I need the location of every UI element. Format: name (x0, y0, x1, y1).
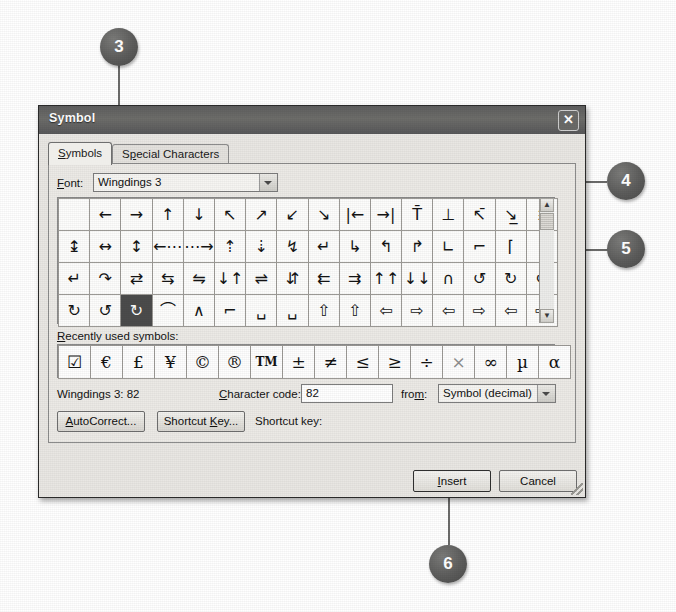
recently-used-cell[interactable]: © (187, 346, 219, 379)
symbol-cell[interactable]: ↖̄ (464, 199, 495, 231)
cancel-button[interactable]: Cancel (499, 470, 577, 492)
symbol-cell[interactable]: ⊥ (433, 199, 464, 231)
symbol-cell[interactable]: ⇦ (433, 295, 464, 327)
scroll-up-icon[interactable]: ▲ (540, 198, 554, 212)
recently-used-cell[interactable]: ¥ (155, 346, 187, 379)
scroll-down-icon[interactable]: ▼ (540, 309, 554, 323)
symbol-cell[interactable]: ↻ (59, 295, 90, 327)
chevron-down-icon[interactable] (537, 385, 555, 402)
recently-used-cell[interactable]: ® (219, 346, 251, 379)
symbol-cell[interactable]: ⇵ (277, 263, 308, 295)
symbol-cell[interactable]: ↯ (277, 231, 308, 263)
symbol-cell[interactable]: ↻ (121, 295, 152, 327)
symbol-cell[interactable]: ⌒ (152, 295, 183, 327)
symbol-cell[interactable]: ⌐ (214, 295, 245, 327)
recently-used-cell[interactable]: × (443, 346, 475, 379)
symbol-grid-scrollbar[interactable]: ▲ ▼ (539, 198, 554, 323)
symbol-cell[interactable]: ⇄ (121, 263, 152, 295)
symbol-cell[interactable]: ↷ (90, 263, 121, 295)
symbol-cell[interactable]: ↘ (308, 199, 339, 231)
from-combobox-value: Symbol (decimal) (443, 387, 532, 399)
symbol-cell[interactable]: ⋯→ (183, 231, 214, 263)
symbol-cell[interactable]: ⌈ (495, 231, 526, 263)
scroll-thumb[interactable] (540, 213, 554, 230)
from-label: from: (401, 388, 427, 400)
symbol-cell[interactable]: ↳ (339, 231, 370, 263)
insert-button[interactable]: Insert (413, 470, 491, 492)
recently-used-cell[interactable]: α (539, 346, 571, 379)
recently-used-cell[interactable]: ≠ (315, 346, 347, 379)
dialog-title: Symbol (49, 111, 95, 125)
recently-used-grid[interactable]: ☑€£¥©®TM±≠≤≥÷×∞µα (57, 344, 555, 378)
tab-special-characters[interactable]: Special Characters (112, 144, 229, 165)
symbol-cell[interactable]: ←⋯ (152, 231, 183, 263)
symbol-cell[interactable]: ↑ (152, 199, 183, 231)
symbol-cell[interactable]: ↵ (308, 231, 339, 263)
symbol-cell[interactable]: ↓↓ (402, 263, 433, 295)
from-combobox[interactable]: Symbol (decimal) (438, 384, 556, 403)
symbol-cell[interactable]: ␣ (246, 295, 277, 327)
close-icon[interactable]: ✕ (558, 110, 579, 131)
chevron-down-icon[interactable] (259, 174, 277, 191)
symbol-cell[interactable]: ⇌ (246, 263, 277, 295)
symbol-cell[interactable]: ⇡ (214, 231, 245, 263)
symbol-cell[interactable]: ↔ (90, 231, 121, 263)
symbol-cell[interactable]: ↑↑ (370, 263, 401, 295)
recently-used-cell[interactable]: ÷ (411, 346, 443, 379)
shortcut-key-button[interactable]: Shortcut Key... (157, 411, 245, 432)
character-code-input[interactable]: 82 (301, 384, 393, 403)
symbol-cell[interactable]: ↨ (59, 231, 90, 263)
symbol-cell[interactable]: →| (370, 199, 401, 231)
symbol-cell[interactable]: ␣ (277, 295, 308, 327)
recently-used-cell[interactable]: ± (283, 346, 315, 379)
symbol-cell[interactable]: ⇦ (370, 295, 401, 327)
symbol-cell[interactable]: ⇉ (339, 263, 370, 295)
symbol-cell[interactable]: ⌐ (464, 231, 495, 263)
symbol-grid[interactable]: ←→↑↓↖↗↙↘|←→|T̄⊥↖̄↘̲↨↨↔↕←⋯⋯→⇡⇣↯↵↳↰↱∟⌐⌈⌉↵↷… (57, 197, 555, 324)
symbol-cell[interactable]: |← (339, 199, 370, 231)
symbol-cell[interactable]: ⇣ (246, 231, 277, 263)
symbol-cell[interactable]: ↱ (402, 231, 433, 263)
symbol-cell[interactable]: ↺ (464, 263, 495, 295)
symbol-grid-row: ←→↑↓↖↗↙↘|←→|T̄⊥↖̄↘̲↨ (59, 199, 558, 231)
symbol-cell[interactable]: ⇦ (495, 295, 526, 327)
recently-used-cell[interactable]: TM (251, 346, 283, 379)
recently-used-cell[interactable]: ∞ (475, 346, 507, 379)
symbol-cell[interactable]: ↗ (246, 199, 277, 231)
recently-used-cell[interactable]: ≥ (379, 346, 411, 379)
resize-grip[interactable] (571, 483, 583, 495)
symbol-cell[interactable]: ⇇ (308, 263, 339, 295)
symbol-cell[interactable]: ⇨ (402, 295, 433, 327)
font-combobox[interactable]: Wingdings 3 (93, 173, 278, 192)
symbol-cell[interactable]: ↺ (90, 295, 121, 327)
recently-used-cell[interactable]: ☑ (59, 346, 91, 379)
symbol-cell[interactable]: ⇧ (339, 295, 370, 327)
symbol-cell[interactable] (59, 199, 90, 231)
symbol-cell[interactable]: ↕ (121, 231, 152, 263)
symbol-cell[interactable]: ⇋ (183, 263, 214, 295)
recently-used-cell[interactable]: £ (123, 346, 155, 379)
recently-used-cell[interactable]: € (91, 346, 123, 379)
tab-symbols[interactable]: Symbols (48, 142, 112, 165)
symbol-cell[interactable]: T̄ (402, 199, 433, 231)
tab-strip: SymbolsSpecial Characters (48, 142, 229, 163)
symbol-cell[interactable]: ↵ (59, 263, 90, 295)
symbol-cell[interactable]: ↻ (495, 263, 526, 295)
symbol-cell[interactable]: ↓↑ (214, 263, 245, 295)
symbol-cell[interactable]: → (121, 199, 152, 231)
symbol-cell[interactable]: ↰ (370, 231, 401, 263)
symbol-cell[interactable]: ⇧ (308, 295, 339, 327)
symbol-cell[interactable]: ∧ (183, 295, 214, 327)
symbol-cell[interactable]: ← (90, 199, 121, 231)
symbol-cell[interactable]: ↘̲ (495, 199, 526, 231)
symbol-cell[interactable]: ↖ (214, 199, 245, 231)
symbol-cell[interactable]: ↙ (277, 199, 308, 231)
recently-used-cell[interactable]: µ (507, 346, 539, 379)
symbol-cell[interactable]: ∟ (433, 231, 464, 263)
symbol-cell[interactable]: ↓ (183, 199, 214, 231)
symbol-cell[interactable]: ⇆ (152, 263, 183, 295)
symbol-cell[interactable]: ⇨ (464, 295, 495, 327)
recently-used-cell[interactable]: ≤ (347, 346, 379, 379)
autocorrect-button[interactable]: AutoCorrect... (57, 411, 145, 432)
symbol-cell[interactable]: ∩ (433, 263, 464, 295)
